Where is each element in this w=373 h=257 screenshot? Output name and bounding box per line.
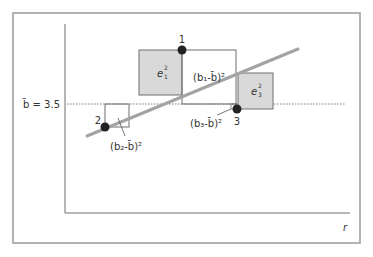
svg-text:2: 2 <box>258 82 262 89</box>
mean-label: b̄ = 3.5 <box>23 98 60 110</box>
point-label-1: 1 <box>179 34 185 45</box>
svg-text:2: 2 <box>164 64 168 71</box>
data-point-2 <box>101 123 110 132</box>
regression-residuals-diagram: 1 2 3 b̄ = 3.5 e 2 1 e 2 3 (b₁-b̄)² (b₂-… <box>0 0 373 257</box>
leader-line-b3 <box>217 109 231 115</box>
data-point-1 <box>178 46 187 55</box>
svg-text:1: 1 <box>164 73 168 80</box>
point-label-2: 2 <box>95 115 101 126</box>
svg-text:e: e <box>157 68 163 79</box>
b2-deviation-label: (b₂-b̄)² <box>110 140 142 152</box>
svg-text:e: e <box>251 86 257 97</box>
x-axis-label: r <box>343 222 348 233</box>
data-point-3 <box>233 105 242 114</box>
svg-text:3: 3 <box>258 91 262 98</box>
b1-deviation-label: (b₁-b̄)² <box>193 71 225 83</box>
b3-deviation-label: (b₃-b̄)² <box>190 117 222 129</box>
point-label-3: 3 <box>234 116 240 127</box>
